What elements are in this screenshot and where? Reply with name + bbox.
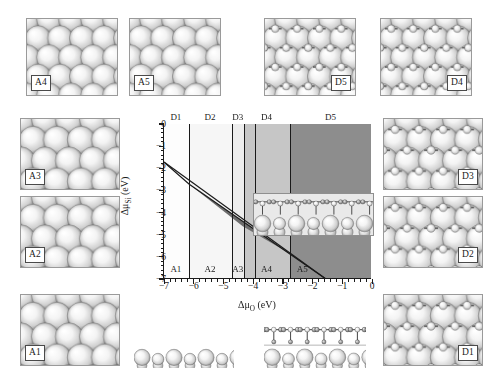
axis-tick	[161, 177, 165, 178]
axis-tick	[161, 221, 165, 222]
axis-tick	[288, 279, 289, 282]
axis-tick	[235, 279, 236, 282]
panel-D1-label: D1	[458, 345, 478, 362]
axis-tick	[205, 279, 206, 282]
axis-tick	[161, 239, 165, 240]
panel-D3-label: D3	[458, 169, 478, 186]
figure-canvas: A4A5D5D4A3A2A1D3D2D1 D1D2D3D4D5A1A2A3A4A…	[0, 0, 503, 382]
axis-tick	[161, 203, 165, 204]
x-tick-label: −3	[278, 281, 288, 291]
phase-label-a2: A2	[205, 264, 216, 274]
axis-tick	[161, 217, 165, 218]
axis-tick	[161, 172, 165, 173]
axis-tick	[161, 181, 165, 182]
phase-label-d4: D4	[261, 112, 272, 122]
axis-tick	[300, 279, 301, 282]
axis-tick	[170, 279, 171, 282]
axis-tick	[229, 279, 230, 282]
phase-divider-1	[189, 124, 190, 278]
axis-tick	[161, 230, 165, 231]
phase-label-d1: D1	[170, 112, 181, 122]
panel-D5-label: D5	[331, 75, 351, 92]
axis-tick	[360, 279, 361, 282]
panel-A3: A3	[20, 118, 120, 190]
panel-D2: D2	[383, 196, 483, 268]
axis-tick	[330, 279, 331, 282]
phase-label-d3: D3	[232, 112, 243, 122]
axis-tick	[161, 252, 165, 253]
phase-label-a3: A3	[232, 264, 243, 274]
axis-tick	[211, 279, 212, 282]
axis-tick	[217, 279, 218, 282]
y-tick-label: −7	[156, 274, 166, 284]
x-tick-label: 0	[370, 281, 375, 291]
panel-D1: D1	[383, 294, 483, 366]
x-tick-label: −6	[189, 281, 199, 291]
axis-tick	[161, 194, 165, 195]
panel-side-clean-structure	[134, 316, 234, 368]
axis-tick	[161, 132, 165, 133]
panel-A1-label: A1	[25, 345, 45, 362]
panel-A3-label: A3	[25, 169, 45, 186]
panel-D2-label: D2	[458, 247, 478, 264]
axis-tick	[271, 279, 272, 282]
phase-label-a4: A4	[261, 264, 272, 274]
phase-label-d2: D2	[205, 112, 216, 122]
phase-label-a1: A1	[170, 264, 181, 274]
panel-A2-label: A2	[25, 247, 45, 264]
phase-label-a5: A5	[297, 264, 308, 274]
axis-tick	[161, 159, 165, 160]
panel-D3: D3	[383, 118, 483, 190]
axis-tick	[161, 186, 165, 187]
axis-tick	[175, 279, 176, 282]
panel-A4: A4	[26, 18, 118, 96]
panel-D4-label: D4	[447, 75, 467, 92]
axis-tick	[161, 137, 165, 138]
phase-divider-2	[232, 124, 233, 278]
axis-tick	[336, 279, 337, 282]
panel-M-structure	[254, 194, 373, 235]
phase-divider-3	[244, 124, 245, 278]
x-tick-label: −1	[337, 281, 347, 291]
axis-tick	[366, 279, 367, 282]
axis-tick	[294, 279, 295, 282]
axis-tick	[161, 208, 165, 209]
axis-tick	[241, 279, 242, 282]
axis-tick	[187, 279, 188, 282]
x-tick-label: −4	[248, 281, 258, 291]
axis-tick	[161, 199, 165, 200]
y-axis-title: ΔμSi (eV)	[119, 177, 133, 216]
axis-tick	[161, 243, 165, 244]
axis-tick	[161, 163, 165, 164]
axis-tick	[161, 225, 165, 226]
panel-A2: A2	[20, 196, 120, 268]
panel-side-clean	[134, 316, 234, 368]
axis-tick	[354, 279, 355, 282]
axis-tick	[247, 279, 248, 282]
axis-tick	[161, 270, 165, 271]
axis-tick	[306, 279, 307, 282]
axis-tick	[161, 141, 165, 142]
axis-tick	[161, 128, 165, 129]
panel-D4: D4	[380, 18, 472, 96]
axis-tick	[161, 261, 165, 262]
axis-tick	[277, 279, 278, 282]
axis-tick	[348, 279, 349, 282]
axis-tick	[318, 279, 319, 282]
x-tick-label: −2	[308, 281, 318, 291]
panel-side-adsorbed	[264, 300, 366, 368]
phase-label-d5: D5	[325, 112, 336, 122]
panel-A1: A1	[20, 294, 120, 366]
panel-D5: D5	[264, 18, 356, 96]
axis-tick	[265, 279, 266, 282]
panel-A4-label: A4	[31, 75, 51, 92]
x-axis-title: ΔμO (eV)	[238, 299, 276, 313]
axis-tick	[259, 279, 260, 282]
axis-tick	[161, 248, 165, 249]
axis-tick	[161, 150, 165, 151]
panel-A5-label: A5	[134, 75, 154, 92]
axis-tick	[161, 274, 165, 275]
x-tick-label: −5	[218, 281, 228, 291]
panel-side-adsorbed-structure	[264, 300, 366, 368]
axis-tick	[199, 279, 200, 282]
